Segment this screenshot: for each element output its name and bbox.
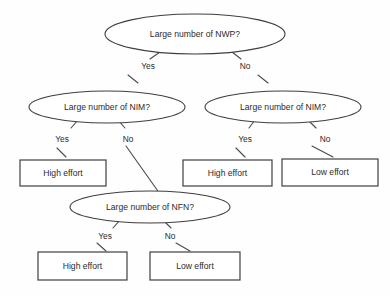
edge-connector: [57, 148, 66, 157]
outcome-node-outcome-3[interactable]: Low effort: [282, 159, 378, 186]
edge-label-label-lnim-yes: Yes: [55, 134, 69, 144]
edge-connector: [97, 243, 106, 251]
decision-node-label: Large number of NIM?: [240, 102, 326, 112]
edge-label-label-nfn-no: No: [165, 231, 176, 241]
edge-connector: [176, 243, 190, 251]
edge-label-label-rnim-yes: Yes: [238, 134, 252, 144]
edge-label-label-lnim-no: No: [123, 134, 134, 144]
decision-node-label: Large number of NWP?: [150, 29, 240, 39]
edge-connector: [128, 75, 138, 83]
outcome-node-outcome-2[interactable]: High effort: [183, 160, 272, 186]
edge-connector: [126, 146, 160, 194]
edge-connector: [150, 52, 160, 59]
edge-connector: [312, 146, 333, 157]
edge-label-label-root-yes: Yes: [141, 61, 155, 71]
decision-node-right-nim[interactable]: Large number of NIM?: [205, 91, 361, 123]
decision-node-left-nim[interactable]: Large number of NIM?: [29, 91, 185, 123]
outcome-node-outcome-4[interactable]: High effort: [38, 252, 127, 280]
outcome-node-label: High effort: [63, 261, 103, 271]
edge-label-label-root-no: No: [240, 61, 251, 71]
edge-label-label-nfn-yes: Yes: [98, 231, 112, 241]
outcome-node-label: Low effort: [176, 261, 214, 271]
outcome-node-label: High effort: [208, 168, 248, 178]
edge-connector: [232, 52, 241, 59]
decision-tree-diagram: Large number of NWP?Large number of NIM?…: [0, 0, 391, 296]
edge-connector: [236, 148, 245, 157]
decision-node-label: Large number of NFN?: [106, 202, 194, 212]
decision-nodes-layer: Large number of NWP?Large number of NIM?…: [29, 14, 361, 223]
outcome-node-label: Low effort: [311, 167, 349, 177]
outcome-node-outcome-1[interactable]: High effort: [20, 160, 106, 186]
edge-label-label-rnim-no: No: [320, 134, 331, 144]
decision-node-nfn[interactable]: Large number of NFN?: [70, 191, 230, 223]
outcome-node-outcome-5[interactable]: Low effort: [150, 252, 240, 280]
edge-connector: [258, 75, 268, 83]
decision-node-root-nwp[interactable]: Large number of NWP?: [105, 14, 285, 54]
decision-node-label: Large number of NIM?: [64, 102, 150, 112]
edges-layer: [57, 52, 333, 251]
outcome-node-label: High effort: [43, 168, 83, 178]
